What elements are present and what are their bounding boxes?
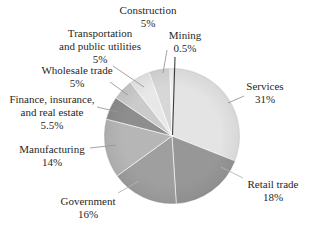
- slice-label-transportation-public-utilities: Transportation and public utilities 5%: [48, 27, 152, 66]
- slice-pct-text: 5%: [48, 53, 152, 66]
- slice-pct-text: 16%: [52, 208, 124, 221]
- slice-label-mining: Mining 0.5%: [162, 29, 208, 55]
- pie-chart-figure: Services 31% Retail trade 18% Government…: [0, 0, 310, 229]
- slice-label-text: and public utilities: [48, 40, 152, 53]
- slice-label-text: Retail trade: [241, 178, 305, 191]
- pie-rim-shading: [104, 68, 240, 204]
- slice-label-retail-trade: Retail trade 18%: [241, 178, 305, 204]
- slice-pct-text: 0.5%: [162, 42, 208, 55]
- slice-label-text: Construction: [106, 4, 190, 17]
- slice-pct-text: 18%: [241, 191, 305, 204]
- slice-label-finance-insurance-real-estate: Finance, insurance, and real estate 5.5%: [6, 93, 98, 132]
- slice-label-text: Government: [52, 195, 124, 208]
- slice-label-text: Services: [235, 80, 295, 93]
- slice-label-wholesale-trade: Wholesale trade 5%: [38, 64, 116, 90]
- slice-pct-text: 5%: [38, 77, 116, 90]
- slice-pct-text: 5.5%: [6, 119, 98, 132]
- slice-label-construction: Construction 5%: [106, 4, 190, 30]
- slice-pct-text: 14%: [10, 156, 94, 169]
- slice-label-text: Mining: [162, 29, 208, 42]
- slice-pct-text: 31%: [235, 93, 295, 106]
- slice-label-text: Finance, insurance,: [6, 93, 98, 106]
- slice-label-services: Services 31%: [235, 80, 295, 106]
- slice-label-text: and real estate: [6, 106, 98, 119]
- slice-label-manufacturing: Manufacturing 14%: [10, 143, 94, 169]
- slice-label-text: Manufacturing: [10, 143, 94, 156]
- slice-label-government: Government 16%: [52, 195, 124, 221]
